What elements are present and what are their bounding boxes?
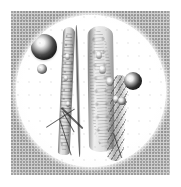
droplet-small-right <box>118 97 126 105</box>
droplet-small-left <box>37 64 47 74</box>
nucleus <box>65 53 70 60</box>
nucleus <box>66 101 70 107</box>
circular-microscope-field <box>16 15 166 167</box>
nucleus <box>106 77 114 86</box>
microscopy-figure <box>0 0 181 187</box>
nucleus <box>99 65 106 74</box>
droplet-medium-right <box>124 72 142 90</box>
droplet-large-upper-left <box>31 34 57 60</box>
nucleus <box>96 51 102 59</box>
nucleus <box>64 75 68 81</box>
